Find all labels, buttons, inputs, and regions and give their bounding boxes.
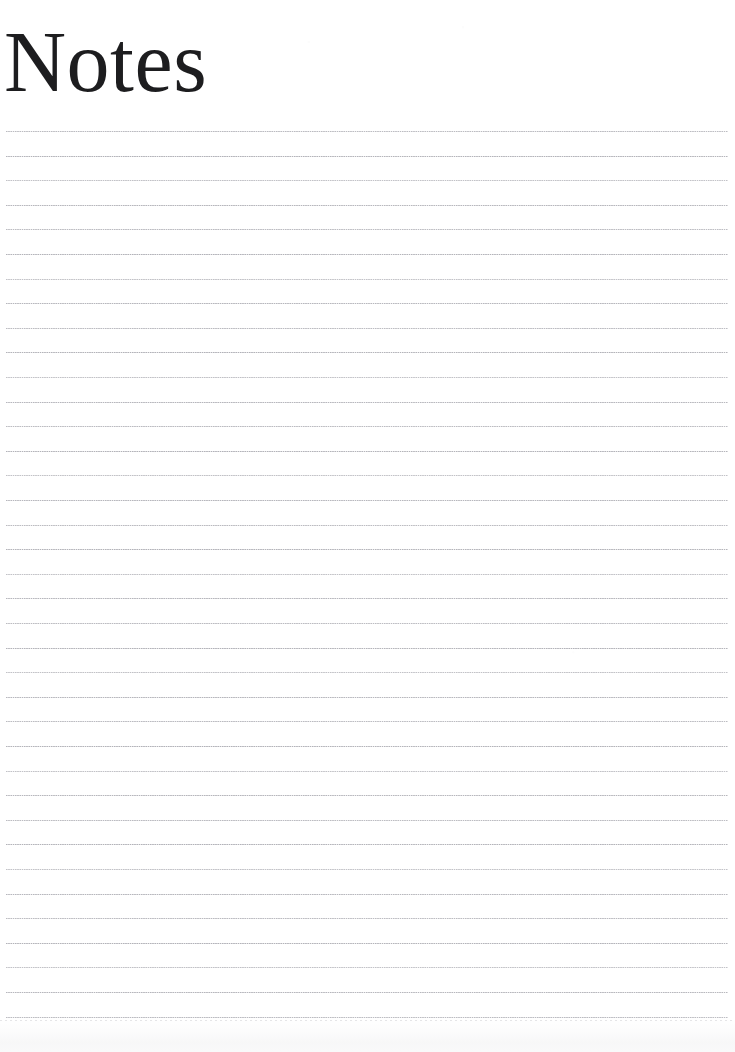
note-line[interactable] [6,894,728,895]
note-line[interactable] [6,771,728,772]
note-line[interactable] [6,672,728,673]
note-line[interactable] [6,500,728,501]
note-line[interactable] [6,869,728,870]
note-line[interactable] [6,180,728,181]
note-line[interactable] [6,549,728,550]
note-line[interactable] [6,918,728,919]
note-line[interactable] [6,205,728,206]
note-line[interactable] [6,746,728,747]
note-line[interactable] [6,844,728,845]
note-line[interactable] [6,943,728,944]
note-line[interactable] [6,426,728,427]
note-line[interactable] [6,967,728,968]
note-line[interactable] [6,795,728,796]
note-line[interactable] [6,279,728,280]
note-line[interactable] [6,352,728,353]
notes-page: Notes [0,0,735,1052]
note-line[interactable] [6,574,728,575]
note-line[interactable] [6,721,728,722]
note-line[interactable] [6,328,728,329]
note-line[interactable] [6,377,728,378]
note-line[interactable] [6,525,728,526]
note-line[interactable] [6,254,728,255]
note-line[interactable] [6,303,728,304]
note-line[interactable] [6,648,728,649]
note-line[interactable] [6,475,728,476]
note-line[interactable] [6,820,728,821]
note-line[interactable] [6,697,728,698]
note-line[interactable] [6,131,728,132]
note-line[interactable] [6,229,728,230]
ruled-lines-area[interactable] [0,0,735,1052]
note-line[interactable] [6,623,728,624]
note-line[interactable] [6,402,728,403]
note-line[interactable] [6,992,728,993]
note-line[interactable] [6,598,728,599]
note-line[interactable] [6,451,728,452]
note-line[interactable] [6,156,728,157]
note-line[interactable] [6,1017,728,1018]
